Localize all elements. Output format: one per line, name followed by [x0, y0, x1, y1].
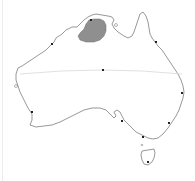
map-marker[interactable]: [31, 111, 33, 113]
map-marker[interactable]: [142, 136, 144, 138]
island: [115, 24, 118, 27]
map-marker[interactable]: [102, 69, 104, 71]
map-marker[interactable]: [90, 19, 92, 21]
map-marker[interactable]: [51, 43, 53, 45]
map-container: [0, 0, 195, 181]
map-marker[interactable]: [168, 122, 170, 124]
island: [141, 144, 143, 146]
australia-map: [0, 0, 195, 181]
map-marker[interactable]: [147, 161, 149, 163]
map-marker[interactable]: [181, 92, 183, 94]
island: [15, 85, 18, 88]
map-marker[interactable]: [121, 120, 123, 122]
map-marker[interactable]: [155, 41, 157, 43]
